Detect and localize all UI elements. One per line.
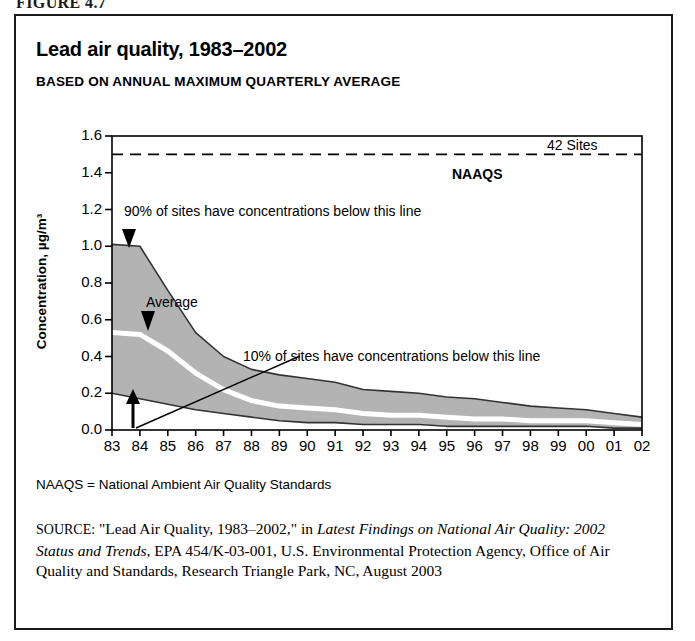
source-quoted-title: "Lead Air Quality, 1983–2002," [99, 520, 297, 537]
chart-title: Lead air quality, 1983–2002 [36, 38, 287, 61]
source-prefix: SOURCE: [36, 522, 95, 537]
source-citation: SOURCE: "Lead Air Quality, 1983–2002," i… [36, 519, 646, 582]
figure-number: FIGURE 4.7 [16, 0, 106, 12]
naaqs-footnote: NAAQS = National Ambient Air Quality Sta… [36, 477, 331, 492]
source-connector: in [301, 520, 313, 537]
chart-subtitle: BASED ON ANNUAL MAXIMUM QUARTERLY AVERAG… [36, 74, 400, 89]
